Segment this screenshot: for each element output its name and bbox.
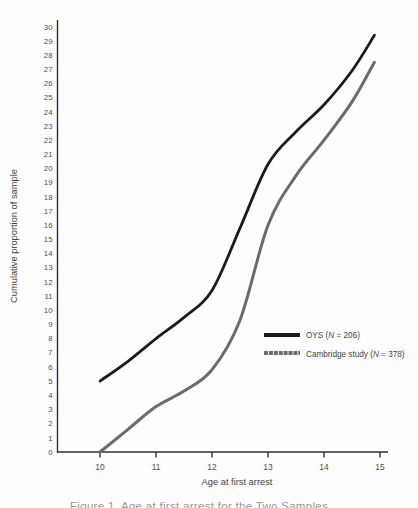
y-tick-label: 8 [48, 334, 52, 343]
y-tick-label: 10 [44, 306, 53, 315]
x-axis-ticks: 101112131415 [95, 452, 385, 472]
y-tick-label: 6 [48, 363, 52, 372]
y-tick-label: 16 [44, 221, 53, 230]
x-tick-label: 15 [375, 462, 385, 472]
y-tick-label: 4 [48, 391, 53, 400]
y-tick-label: 22 [44, 136, 53, 145]
y-tick-label: 17 [44, 207, 53, 216]
cumulative-proportion-line-chart: 0123456789101112131415161718192021222324… [0, 0, 418, 508]
x-tick-label: 12 [207, 462, 217, 472]
y-tick-label: 26 [44, 79, 53, 88]
y-tick-label: 28 [44, 51, 53, 60]
figure-page: 0123456789101112131415161718192021222324… [0, 0, 418, 508]
y-tick-label: 9 [48, 320, 52, 329]
y-tick-label: 2 [48, 419, 52, 428]
legend-label-cambridge: Cambridge study (N = 378) [306, 350, 405, 359]
y-tick-label: 30 [44, 23, 53, 32]
y-tick-label: 20 [44, 164, 53, 173]
y-tick-label: 21 [44, 150, 53, 159]
y-tick-label: 5 [48, 377, 53, 386]
x-tick-label: 14 [319, 462, 329, 472]
y-tick-label: 11 [44, 292, 52, 301]
y-axis-tick-labels: 0123456789101112131415161718192021222324… [44, 23, 53, 457]
x-tick-label: 13 [263, 462, 273, 472]
legend-label-oys: OYS (N = 206) [306, 331, 360, 340]
legend: OYS (N = 206) Cambridge study (N = 378) [264, 331, 405, 359]
cropped-figure-caption: Figure 1. Age at first arrest for the Tw… [70, 500, 370, 508]
x-axis-title: Age at first arrest [202, 477, 273, 487]
y-tick-label: 29 [44, 37, 53, 46]
y-tick-label: 24 [44, 108, 53, 117]
y-tick-label: 25 [44, 93, 53, 102]
y-tick-label: 0 [48, 448, 53, 457]
x-tick-label: 11 [152, 462, 161, 472]
y-tick-label: 23 [44, 122, 53, 131]
y-tick-label: 13 [44, 263, 53, 272]
series-line-cambridge [100, 62, 374, 452]
y-tick-label: 1 [48, 434, 52, 443]
y-axis-title: Cumulative proportion of sample [9, 169, 19, 303]
data-series-curves [100, 35, 374, 452]
y-tick-label: 15 [44, 235, 53, 244]
y-tick-label: 14 [44, 249, 53, 258]
y-tick-label: 7 [48, 348, 52, 357]
x-tick-label: 10 [95, 462, 105, 472]
y-tick-label: 19 [44, 178, 53, 187]
y-tick-label: 27 [44, 65, 53, 74]
y-tick-label: 3 [48, 405, 52, 414]
y-tick-label: 12 [44, 278, 53, 287]
y-tick-label: 18 [44, 193, 53, 202]
